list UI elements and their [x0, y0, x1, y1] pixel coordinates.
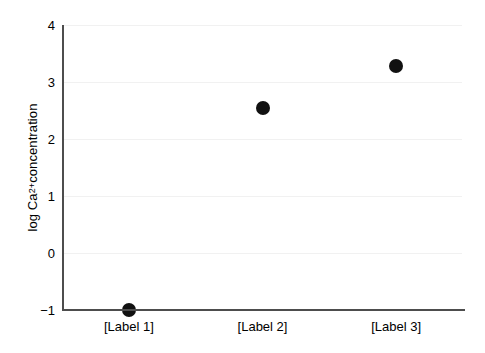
data-point	[256, 101, 270, 115]
y-tick-label: −1	[0, 304, 62, 317]
x-axis-spine	[62, 309, 465, 311]
y-axis-tick-labels: −101234	[0, 0, 62, 353]
y-tick-label: 1	[0, 190, 62, 203]
gridline	[62, 196, 462, 197]
y-axis-spine	[62, 25, 64, 311]
gridline	[62, 82, 462, 83]
y-tick-label: 0	[0, 247, 62, 260]
y-tick-label: 3	[0, 76, 62, 89]
x-axis-tick-labels: [Label 1][Label 2][Label 3]	[62, 318, 463, 342]
scatter-chart: log Ca2+ concentration −101234 [Label 1]…	[0, 0, 485, 353]
y-tick-label: 2	[0, 133, 62, 146]
gridline	[62, 139, 462, 140]
x-tick-label: [Label 3]	[371, 318, 421, 336]
data-point	[389, 59, 403, 73]
x-tick-label: [Label 2]	[238, 318, 288, 336]
gridline	[62, 25, 462, 26]
plot-area	[62, 25, 463, 310]
y-tick-label: 4	[0, 19, 62, 32]
x-tick-label: [Label 1]	[104, 318, 154, 336]
gridline	[62, 253, 462, 254]
